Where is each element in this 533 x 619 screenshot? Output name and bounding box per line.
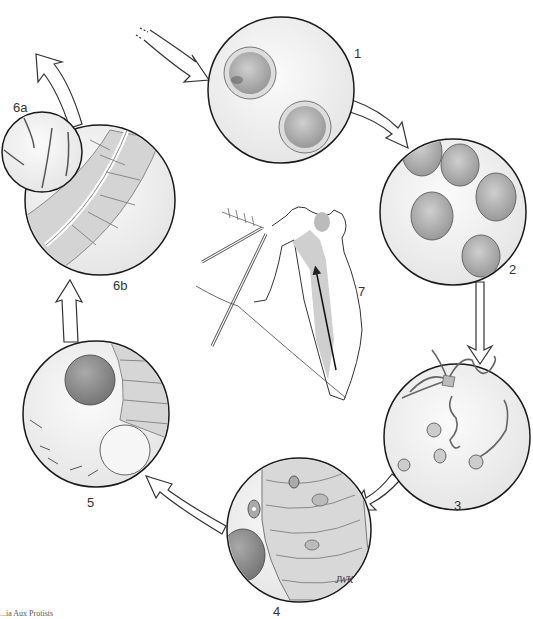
caption-fragment: ...ia Aux Protists xyxy=(0,609,53,618)
stage-7-label: 7 xyxy=(358,284,365,299)
entry-arrow xyxy=(144,30,209,82)
arrow-1-to-2 xyxy=(350,100,408,148)
stage-5-circle xyxy=(23,340,172,487)
stage-6a-circle xyxy=(2,112,82,192)
artist-signature: JWK xyxy=(335,574,353,585)
life-cycle-diagram: 1 2 3 4 5 6a 6b 7 JWK ...ia Aux Protists xyxy=(0,0,533,619)
arrow-2-to-3 xyxy=(468,282,492,364)
stage-3-circle xyxy=(384,350,530,510)
stage-2-label: 2 xyxy=(509,262,516,277)
stage-5-label: 5 xyxy=(87,495,94,510)
stage-4-label: 4 xyxy=(273,604,280,619)
stage-6b-label: 6b xyxy=(113,278,127,293)
arrow-4-to-5 xyxy=(146,476,226,534)
stage-6a-label: 6a xyxy=(13,100,27,115)
stage-2-circle xyxy=(380,128,526,285)
stage-1-circle xyxy=(208,17,354,163)
stage-1-label: 1 xyxy=(354,46,361,61)
mosquito-diagram xyxy=(196,207,362,400)
stage-3-label: 3 xyxy=(454,498,461,513)
arrow-5-to-6b xyxy=(56,280,82,342)
